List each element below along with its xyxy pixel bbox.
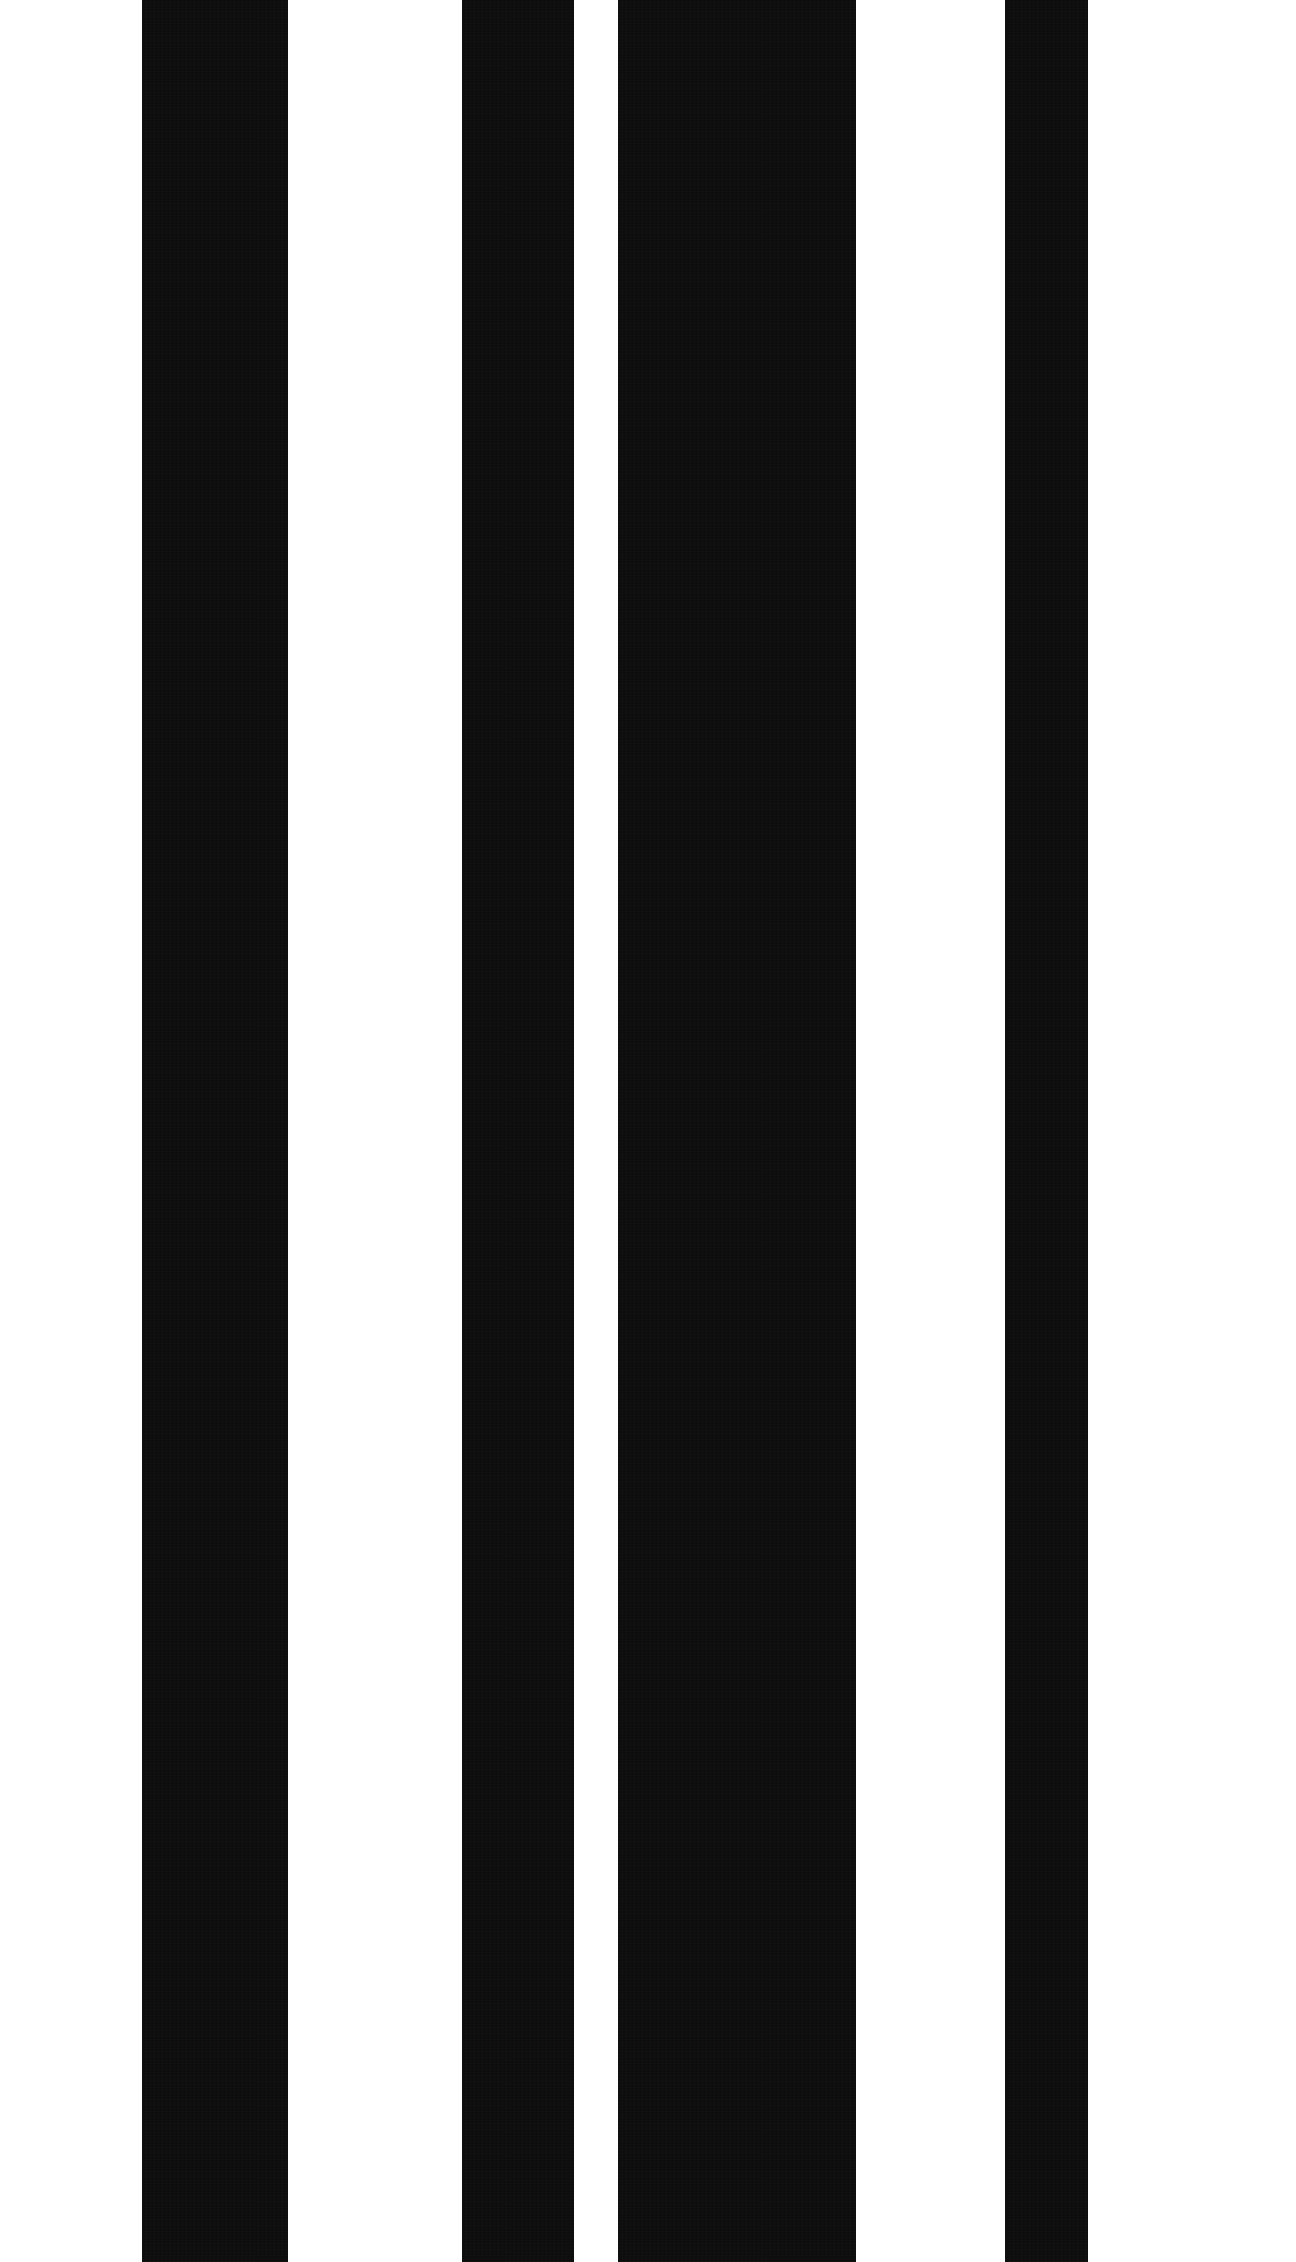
bar-2	[462, 0, 574, 2262]
bar-4	[1005, 0, 1088, 2262]
gap-left-margin	[0, 0, 142, 2262]
gap-between-3-4	[856, 0, 1005, 2262]
bar-pattern-canvas	[0, 0, 1296, 2262]
gap-right-margin	[1088, 0, 1296, 2262]
gap-between-2-3	[574, 0, 618, 2262]
bar-3	[618, 0, 856, 2262]
bar-1	[142, 0, 288, 2262]
gap-between-1-2	[288, 0, 462, 2262]
